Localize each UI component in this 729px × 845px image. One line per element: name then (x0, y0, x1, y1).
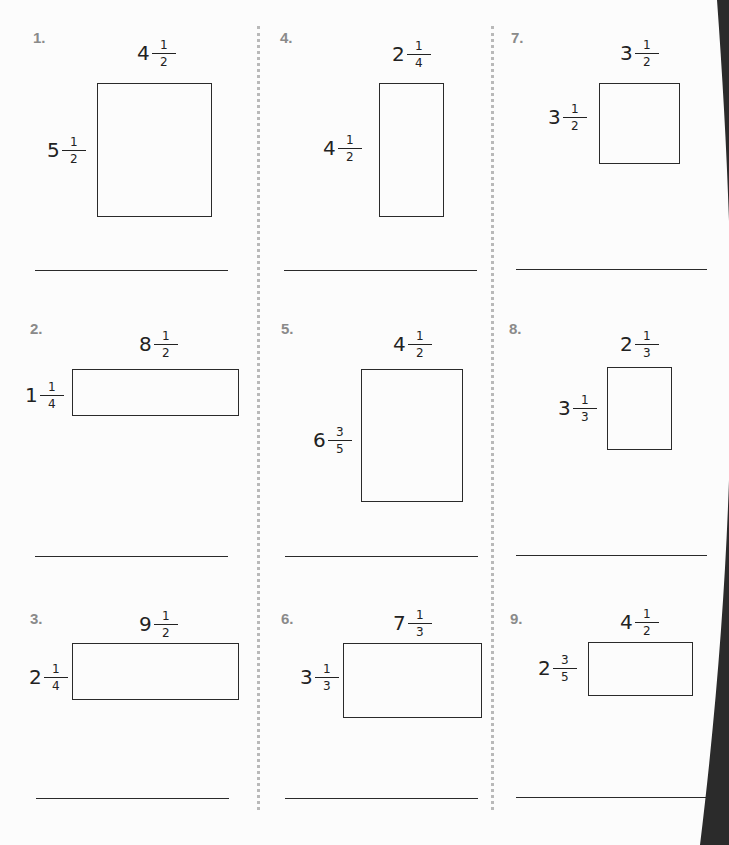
page-edge-shadow (0, 0, 729, 845)
worksheet-page: 1. 4 12 5 12 2. 8 12 1 14 3. 9 12 (0, 0, 729, 845)
